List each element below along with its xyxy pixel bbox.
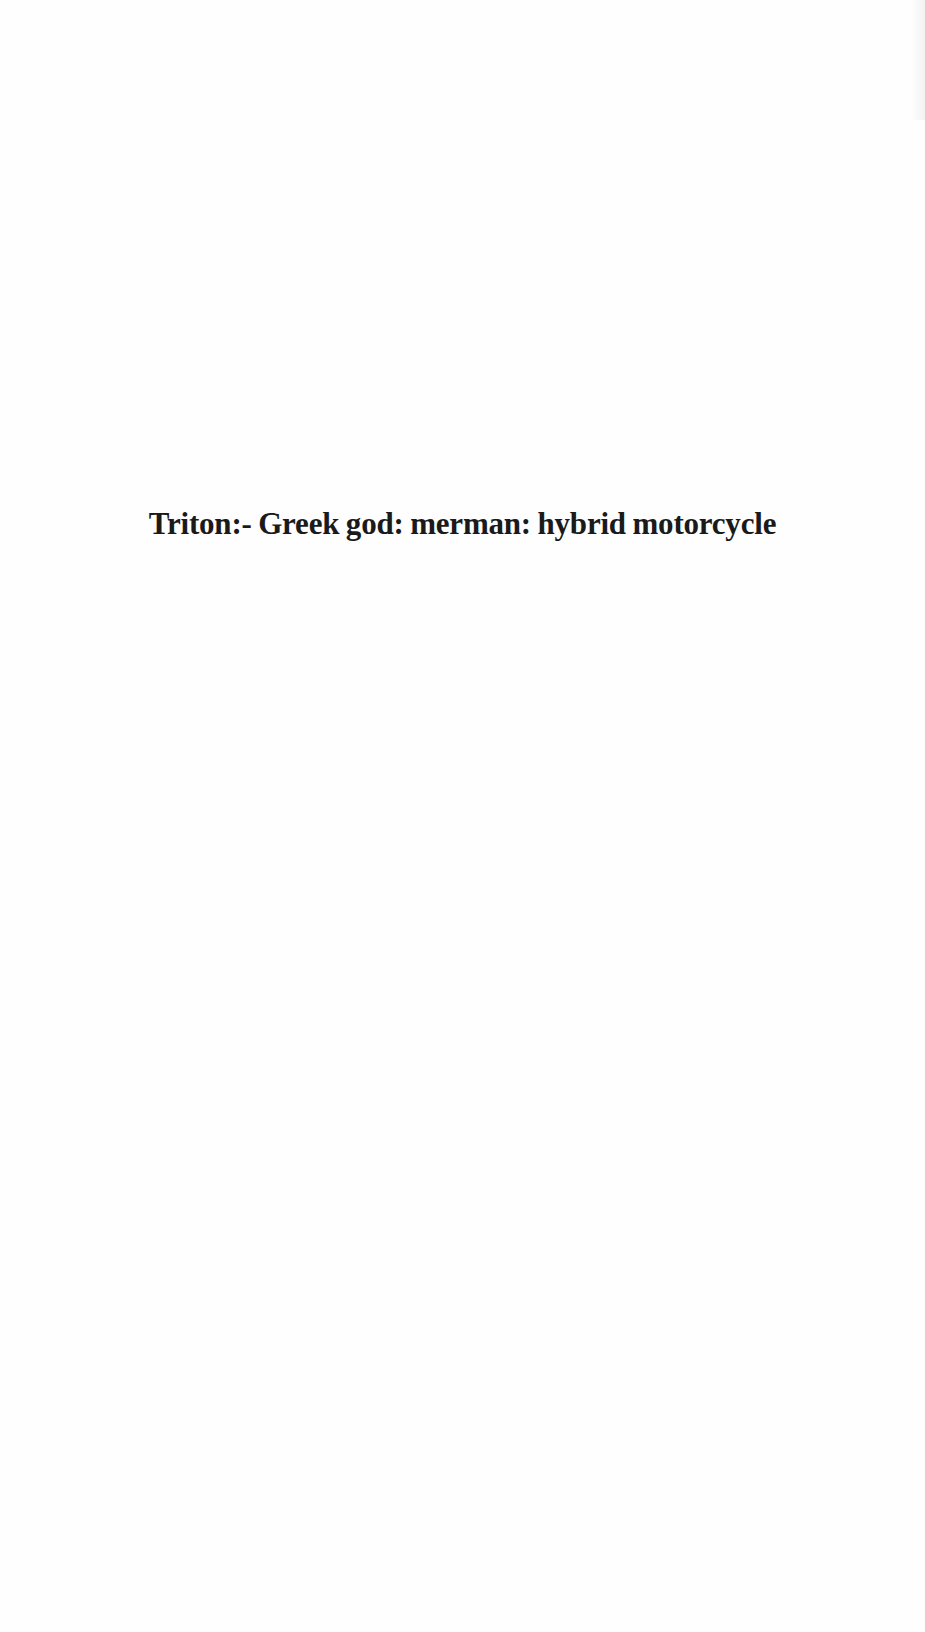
page-edge-shadow — [911, 0, 925, 120]
document-title-line: Triton:- Greek god: merman: hybrid motor… — [0, 504, 925, 544]
document-page: Triton:- Greek god: merman: hybrid motor… — [0, 0, 925, 1632]
